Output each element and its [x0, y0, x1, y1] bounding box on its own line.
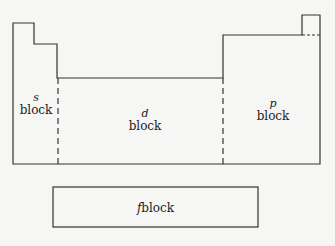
p-block-label: p block	[243, 98, 303, 122]
s-block-text: block	[20, 103, 53, 117]
f-block-text: block	[141, 201, 174, 215]
d-block-label: d block	[110, 108, 180, 132]
f-block-label: fblock	[53, 202, 258, 214]
s-block-label: s block	[14, 92, 58, 116]
p-block-text: block	[257, 109, 290, 123]
main-table-outline	[13, 15, 320, 164]
d-block-text: block	[129, 119, 162, 133]
